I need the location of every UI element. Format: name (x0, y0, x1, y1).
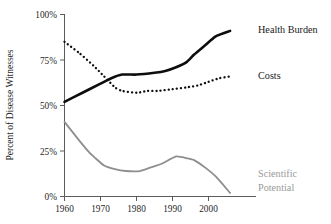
x-tick-label-1960: 1960 (55, 204, 74, 214)
chart-container: Percent of Disease Witnesses 100% 75% 50… (0, 0, 331, 224)
series-line-costs (65, 42, 231, 93)
series-label-health-burden: Health Burden (258, 24, 318, 35)
y-tick-label-100: 100% (35, 10, 57, 20)
series-label-potential: Potential (258, 182, 294, 193)
x-tick-label-1980: 1980 (127, 204, 146, 214)
x-tick-label-1990: 1990 (163, 204, 182, 214)
series-label-costs: Costs (258, 70, 281, 81)
y-tick-label-50: 50% (40, 101, 57, 111)
y-tick-label-25: 25% (40, 147, 57, 157)
y-tick-label-75: 75% (40, 56, 57, 66)
series-line-scientific-potential (65, 122, 231, 193)
series-label-scientific: Scientific (258, 168, 298, 179)
x-axis-tick-labels: 1960 1970 1980 1990 2000 (55, 204, 218, 214)
axes-group (65, 14, 257, 197)
y-axis-title: Percent of Disease Witnesses (5, 49, 15, 160)
x-tick-label-1970: 1970 (91, 204, 110, 214)
x-axis-ticks (65, 197, 209, 202)
series-group (65, 31, 231, 193)
line-chart-svg: Percent of Disease Witnesses 100% 75% 50… (0, 0, 331, 224)
y-axis-tick-labels: 100% 75% 50% 25% 0% (35, 10, 57, 202)
series-labels-group: Health Burden Costs Scientific Potential (258, 24, 318, 193)
y-tick-label-0: 0% (45, 192, 58, 202)
x-tick-label-2000: 2000 (199, 204, 218, 214)
